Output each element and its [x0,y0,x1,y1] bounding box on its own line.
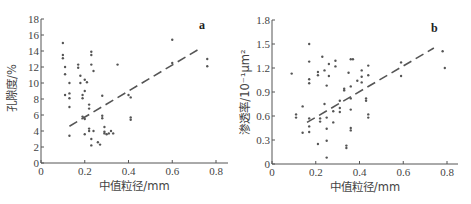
data-point [206,65,208,67]
y-tick-label: 2 [34,141,40,153]
y-tick-label: 0 [34,157,40,169]
data-point [347,72,349,74]
y-tick-label: 0.6 [256,110,270,122]
data-point [101,117,103,119]
data-point [90,51,92,53]
data-point [62,57,64,59]
x-tick-label: 0.8 [209,165,223,177]
data-point [101,95,103,97]
data-point [84,90,86,92]
data-point [339,100,341,102]
data-point [92,70,94,72]
data-point [308,43,310,45]
data-point [206,58,208,60]
data-point [350,127,352,129]
data-point [323,103,325,105]
data-point [81,94,83,96]
data-point [308,60,310,62]
data-point [325,116,327,118]
data-point [116,63,118,65]
trend-line [69,49,198,126]
data-point [68,92,70,94]
data-points [290,43,446,159]
data-point [88,103,90,105]
data-point [295,116,297,118]
data-point [350,129,352,131]
y-axis-title: 渗透率/10⁻¹μm² [238,49,252,134]
x-tick-label: 0.4 [353,166,367,178]
scatter-plot-porosity: 00.20.40.60.8024681012141618中值粒径/mm孔隙度/%… [0,0,235,204]
data-point [301,132,303,134]
y-tick-label: 12 [28,61,39,73]
data-point [308,125,310,127]
data-point [360,81,362,83]
data-point [328,75,330,77]
data-point [68,135,70,137]
y-tick-label: 6 [34,109,40,121]
data-point [64,94,66,96]
x-tick-label: 0.2 [309,166,323,178]
data-point [64,66,66,68]
data-point [64,73,66,75]
x-tick-label: 0.4 [122,165,136,177]
data-point [129,116,131,118]
data-point [334,65,336,67]
data-point [360,76,362,78]
y-tick-label: 4 [34,125,40,137]
y-tick-label: 1.8 [256,14,270,26]
data-point [103,126,105,128]
data-point [129,119,131,121]
data-point [345,147,347,149]
y-tick-label: 16 [28,29,40,41]
data-point [308,78,310,80]
data-point [90,54,92,56]
panel-label: b [431,21,438,35]
data-point [62,54,64,56]
data-point [81,97,83,99]
data-point [108,132,110,134]
data-point [68,106,70,108]
y-tick-label: 0.3 [256,134,270,146]
data-point [365,100,367,102]
x-tick-label: 0.2 [78,165,92,177]
data-point [88,107,90,109]
data-point [367,74,369,76]
data-point [356,80,358,82]
data-point [301,105,303,107]
data-point [295,113,297,115]
data-point [367,113,369,115]
data-point [112,132,114,134]
data-point [339,111,341,113]
data-point [365,97,367,99]
y-tick-label: 1.2 [256,62,270,74]
data-point [345,144,347,146]
data-point [321,56,323,58]
data-point [350,58,352,60]
data-point [325,140,327,142]
data-point [328,63,330,65]
data-point [171,39,173,41]
y-tick-label: 14 [28,45,40,57]
data-point [99,143,101,145]
data-point [325,84,327,86]
data-point [350,108,352,110]
data-point [79,75,81,77]
data-point [68,97,70,99]
x-tick-label: 0 [38,165,44,177]
data-point [88,130,90,132]
data-point [84,133,86,135]
x-axis-title: 中值粒径/mm [99,179,169,193]
data-point [367,64,369,66]
data-point [400,61,402,63]
y-tick-label: 8 [34,93,40,105]
data-point [77,63,79,65]
y-tick-label: 0.9 [256,86,270,98]
data-point [441,50,443,52]
data-point [332,121,334,123]
data-point [308,131,310,133]
data-point [79,82,81,84]
data-point [360,69,362,71]
data-point [88,127,90,129]
data-point [90,63,92,65]
data-points [62,39,209,147]
